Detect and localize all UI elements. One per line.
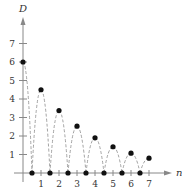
bounce-arc	[95, 138, 104, 173]
x-tick-label: 1	[38, 179, 44, 189]
bounce-arc	[113, 147, 122, 173]
bounce-arc	[50, 111, 59, 173]
bounce-arc	[59, 111, 68, 173]
data-point	[137, 170, 142, 175]
data-point	[83, 170, 88, 175]
dashed-arcs	[23, 62, 149, 173]
x-tick-label: 5	[110, 179, 116, 189]
x-axis-label: n	[176, 167, 182, 178]
x-tick-label: 4	[92, 179, 98, 189]
bounce-arc	[131, 153, 140, 173]
y-tick-label: 4	[9, 94, 15, 104]
y-tick-label: 1	[9, 150, 15, 160]
data-point	[47, 170, 52, 175]
data-point	[74, 124, 79, 129]
data-point	[119, 170, 124, 175]
x-tick-label: 3	[74, 179, 80, 189]
bounce-arc	[32, 90, 41, 173]
data-point	[92, 135, 97, 140]
data-point	[146, 156, 151, 161]
data-point	[38, 87, 43, 92]
y-tick-label: 5	[9, 76, 15, 86]
x-tick-label: 6	[128, 179, 134, 189]
x-tick-label: 2	[56, 179, 62, 189]
data-point	[101, 170, 106, 175]
bounce-arc	[104, 147, 113, 173]
data-point	[65, 170, 70, 175]
data-point	[56, 108, 61, 113]
y-tick-label: 3	[9, 113, 15, 123]
data-point	[110, 144, 115, 149]
x-tick-label: 7	[146, 179, 152, 189]
y-tick-label: 7	[9, 39, 15, 49]
data-point	[20, 59, 25, 64]
bounce-arc	[41, 90, 50, 173]
y-tick-label: 2	[9, 131, 15, 141]
data-point	[128, 151, 133, 156]
bounce-arc	[86, 138, 95, 173]
bounce-chart: nD12345671234567	[0, 0, 182, 190]
data-point	[29, 170, 34, 175]
bounce-arc	[77, 126, 86, 173]
data-points	[20, 59, 151, 175]
bounce-arc	[68, 126, 77, 173]
y-axis-label: D	[18, 3, 27, 14]
y-tick-label: 6	[9, 57, 15, 67]
tick-labels: nD12345671234567	[9, 3, 182, 189]
bounce-arc	[122, 153, 131, 173]
x-axis-arrow-icon	[164, 171, 172, 176]
y-axis-arrow-icon	[21, 17, 26, 25]
